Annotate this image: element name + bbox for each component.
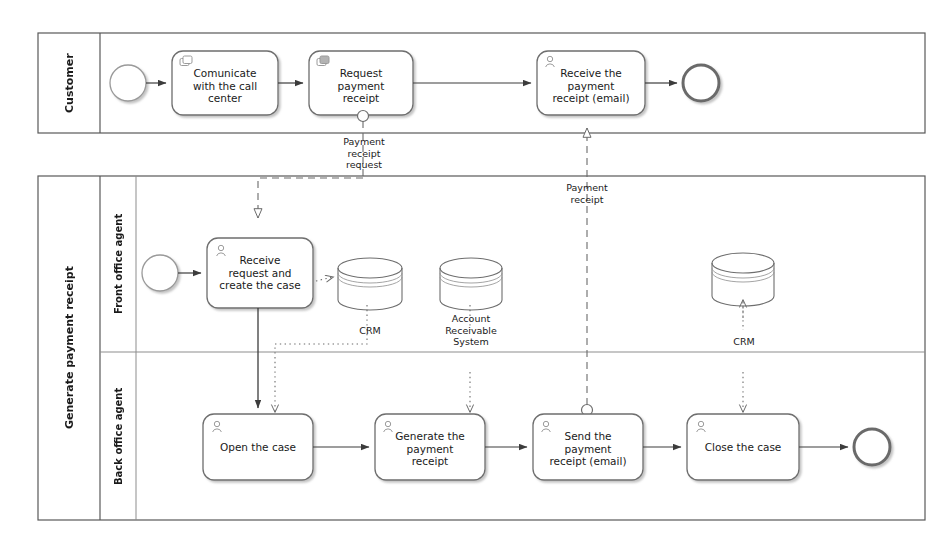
lane-label-front-office: Front office agent bbox=[100, 176, 136, 352]
pool-label-customer-text: Customer bbox=[63, 53, 76, 113]
msgflow1-line1: Payment bbox=[318, 136, 410, 148]
datastore-crm-left[interactable] bbox=[336, 258, 404, 310]
task-send-receipt-shape bbox=[533, 414, 643, 480]
lane-label-back-office-text: Back office agent bbox=[113, 387, 124, 484]
datastore-ars-line2: Receivable bbox=[435, 325, 507, 337]
datastore-ars-line1: Account bbox=[435, 313, 507, 325]
datastore-account-receivable[interactable] bbox=[438, 258, 504, 310]
start-event-customer[interactable] bbox=[110, 65, 146, 101]
msgflow1-line3: request bbox=[318, 159, 410, 171]
datastore-crm-right[interactable] bbox=[710, 253, 776, 305]
bpmn-diagram-canvas: Customer Generate payment receipt Front … bbox=[0, 0, 945, 560]
msgflow2-line1: Payment bbox=[545, 182, 629, 194]
end-event-customer[interactable] bbox=[683, 65, 719, 101]
lane-label-back-office: Back office agent bbox=[100, 352, 136, 520]
start-event-front-office[interactable] bbox=[142, 255, 178, 291]
msgflow2-line2: receipt bbox=[545, 194, 629, 206]
msgflow-payment-receipt-label: Payment receipt bbox=[545, 182, 629, 205]
lane-label-front-office-text: Front office agent bbox=[113, 214, 124, 314]
end-event-back-office[interactable] bbox=[854, 429, 890, 465]
boundary-message-event-request bbox=[358, 111, 369, 122]
datastore-crm-right-text: CRM bbox=[733, 336, 754, 347]
msgflow1-line2: receipt bbox=[318, 148, 410, 160]
datastore-account-receivable-label: Account Receivable System bbox=[435, 313, 507, 348]
task-receive-receipt-shape bbox=[537, 51, 645, 115]
msgflow-payment-receipt-request-label: Payment receipt request bbox=[318, 136, 410, 171]
datastore-crm-left-label: CRM bbox=[340, 325, 400, 337]
datastore-crm-right-label: CRM bbox=[715, 336, 773, 348]
datastore-ars-line3: System bbox=[435, 336, 507, 348]
pool-label-generate-text: Generate payment receipt bbox=[63, 267, 76, 430]
datastore-crm-left-text: CRM bbox=[359, 325, 380, 336]
task-generate-receipt-shape bbox=[375, 414, 485, 480]
pool-label-generate-payment-receipt: Generate payment receipt bbox=[38, 176, 100, 520]
pool-label-customer: Customer bbox=[38, 33, 100, 133]
